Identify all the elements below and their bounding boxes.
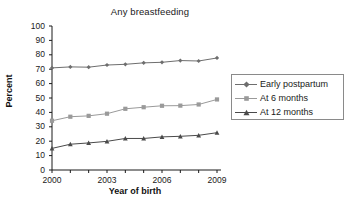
legend-label: Early postpartum [260, 79, 328, 89]
data-point-marker [68, 115, 72, 119]
legend-label: At 12 months [260, 107, 313, 117]
axis-lines [52, 26, 221, 170]
chart-figure: Any breastfeeding Percent Year of birth … [0, 0, 354, 203]
data-point-marker [160, 104, 164, 108]
data-point-marker [142, 105, 146, 109]
data-point-marker [87, 114, 91, 118]
legend-item-at-12-months: At 12 months [235, 105, 313, 119]
data-point-marker [197, 59, 201, 63]
legend-marker-square-icon [235, 93, 257, 103]
chart-legend: Early postpartum At 6 months At 12 month… [231, 74, 344, 120]
legend-item-at-6-months: At 6 months [235, 91, 308, 105]
data-point-marker [105, 112, 109, 116]
data-point-marker [123, 62, 127, 66]
data-point-marker [178, 104, 182, 108]
series-line-3 [50, 130, 220, 150]
legend-marker-diamond-icon [235, 79, 257, 89]
data-point-marker [123, 107, 127, 111]
data-point-marker [215, 56, 219, 60]
data-point-marker [68, 65, 72, 69]
legend-item-early-postpartum: Early postpartum [235, 77, 328, 91]
data-point-marker [87, 65, 91, 69]
data-point-marker [160, 60, 164, 64]
data-point-marker [197, 102, 201, 106]
series-line-1 [50, 56, 219, 70]
series-line-2 [50, 97, 219, 123]
data-point-marker [178, 58, 182, 62]
legend-label: At 6 months [260, 93, 308, 103]
legend-marker-triangle-icon [235, 107, 257, 117]
data-point-marker [105, 63, 109, 67]
data-point-marker [215, 97, 219, 101]
data-point-marker [50, 119, 54, 123]
data-point-marker [142, 61, 146, 65]
